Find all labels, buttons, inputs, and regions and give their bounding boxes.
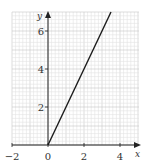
x-tick-label: 0 xyxy=(45,151,51,162)
y-tick-label: 6 xyxy=(38,26,44,37)
x-tick-label: 4 xyxy=(117,151,123,162)
y-tick-label: 2 xyxy=(38,102,44,113)
grid xyxy=(12,12,139,145)
x-tick-label: −2 xyxy=(5,151,20,162)
x-tick-label: 2 xyxy=(81,151,87,162)
series-line xyxy=(48,12,111,145)
y-tick-label: 4 xyxy=(38,64,44,75)
x-axis-label: x xyxy=(135,149,140,159)
chart: −2024246xy xyxy=(0,0,143,168)
y-axis-label: y xyxy=(36,11,43,21)
x-axis-arrow-icon xyxy=(134,142,141,148)
series xyxy=(48,12,111,145)
